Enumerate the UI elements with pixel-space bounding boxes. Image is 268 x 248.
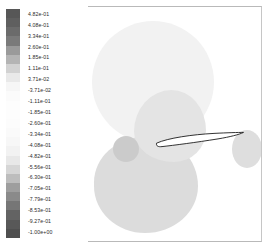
colorbar-band-1: [6, 18, 20, 27]
colorbar-tick-label-0: 4.82e-01: [28, 9, 86, 20]
colorbar-panel: 4.82e-014.08e-013.34e-012.60e-011.85e-01…: [0, 0, 88, 248]
colorbar-band-7: [6, 73, 20, 82]
colorbar-band-13: [6, 128, 20, 137]
colorbar-tick-label-10: -2.60e-01: [28, 118, 86, 129]
colorbar-tick-label-15: -6.30e-01: [28, 173, 86, 184]
pressure-contour-figure: 4.82e-014.08e-013.34e-012.60e-011.85e-01…: [0, 0, 268, 248]
colorbar-band-20: [6, 192, 20, 201]
colorbar-band-19: [6, 183, 20, 192]
colorbar-band-5: [6, 55, 20, 64]
colorbar-band-2: [6, 27, 20, 36]
colorbar-band-11: [6, 110, 20, 119]
colorbar-band-18: [6, 174, 20, 183]
colorbar-band-0: [6, 9, 20, 18]
colorbar-tick-label-7: -3.71e-02: [28, 85, 86, 96]
colorbar-tick-label-20: -1.00e+00: [28, 227, 86, 238]
colorbar-band-16: [6, 156, 20, 165]
colorbar-band-15: [6, 146, 20, 155]
colorbar-tick-label-19: -9.27e-01: [28, 216, 86, 227]
colorbar-band-24: [6, 229, 20, 238]
colorbar-band-17: [6, 165, 20, 174]
airfoil-body: [156, 132, 243, 146]
colorbar-tick-label-5: 1.11e-01: [28, 64, 86, 75]
colorbar-tick-labels: 4.82e-014.08e-013.34e-012.60e-011.85e-01…: [28, 9, 86, 238]
colorbar-band-4: [6, 46, 20, 55]
colorbar-tick-label-4: 1.85e-01: [28, 53, 86, 64]
colorbar-band-21: [6, 201, 20, 210]
colorbar-band-3: [6, 36, 20, 45]
colorbar-band-23: [6, 220, 20, 229]
colorbar-tick-label-1: 4.08e-01: [28, 20, 86, 31]
colorbar-band-22: [6, 210, 20, 219]
colorbar-tick-label-2: 3.34e-01: [28, 31, 86, 42]
colorbar-band-14: [6, 137, 20, 146]
colorbar-tick-label-17: -7.79e-01: [28, 194, 86, 205]
colorbar-tick-label-3: 2.60e-01: [28, 42, 86, 53]
colorbar-band-8: [6, 82, 20, 91]
colorbar-tick-label-9: -1.85e-01: [28, 107, 86, 118]
colorbar-band-10: [6, 101, 20, 110]
colorbar-tick-label-14: -5.56e-01: [28, 162, 86, 173]
colorbar-tick-label-18: -8.53e-01: [28, 205, 86, 216]
colorbar-tick-label-12: -4.08e-01: [28, 140, 86, 151]
colorbar-band-6: [6, 64, 20, 73]
plot-frame: [88, 6, 262, 242]
colorbar-tick-label-13: -4.82e-01: [28, 151, 86, 162]
colorbar-band-9: [6, 91, 20, 100]
colorbar-band-12: [6, 119, 20, 128]
colorbar-tick-label-8: -1.11e-01: [28, 96, 86, 107]
airfoil-layer: [88, 7, 262, 242]
colorbar-gradient-strip: [6, 9, 20, 238]
colorbar-tick-label-6: 3.71e-02: [28, 74, 86, 85]
colorbar-tick-label-16: -7.05e-01: [28, 184, 86, 195]
colorbar-tick-label-11: -3.34e-01: [28, 129, 86, 140]
